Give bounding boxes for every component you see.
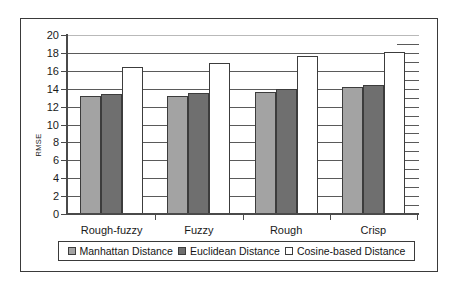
y-tick-label: 8 xyxy=(53,137,59,148)
x-tick-mark xyxy=(243,215,244,220)
y-tick-label: 12 xyxy=(47,101,59,112)
legend-entry[interactable]: Euclidean Distance xyxy=(178,246,280,257)
bar xyxy=(101,94,122,213)
x-axis-category-label: Fuzzy xyxy=(184,225,213,236)
legend-label: Manhattan Distance xyxy=(80,246,173,257)
x-axis-category-label: Rough-fuzzy xyxy=(81,225,143,236)
bar xyxy=(276,89,297,213)
bar-group xyxy=(68,34,155,213)
legend-swatch-icon xyxy=(178,247,186,255)
bar-group xyxy=(330,34,417,213)
bar-group xyxy=(243,34,330,213)
x-tick-mark xyxy=(417,215,418,220)
y-tick-label: 14 xyxy=(47,83,59,94)
legend-label: Euclidean Distance xyxy=(190,246,280,257)
bar xyxy=(255,92,276,213)
y-tick-label: 0 xyxy=(53,209,59,220)
bar xyxy=(384,52,405,213)
bar xyxy=(188,93,209,213)
bar xyxy=(297,56,318,213)
y-tick-label: 20 xyxy=(47,30,59,41)
x-tick-mark xyxy=(155,215,156,220)
bar xyxy=(363,85,384,213)
bar xyxy=(122,67,143,213)
legend-swatch-icon xyxy=(285,247,293,255)
x-axis-category-label: Rough xyxy=(270,225,302,236)
bar-group xyxy=(155,34,242,213)
legend-swatch-icon xyxy=(68,247,76,255)
plot-area: 02468101214161820 Rough-fuzzyFuzzyRoughC… xyxy=(66,34,419,215)
chart-legend: Manhattan DistanceEuclidean DistanceCosi… xyxy=(58,241,415,261)
y-tick-label: 6 xyxy=(53,155,59,166)
y-tick-label: 4 xyxy=(53,173,59,184)
x-tick-mark xyxy=(330,215,331,220)
y-tick-label: 2 xyxy=(53,191,59,202)
legend-entry[interactable]: Cosine-based Distance xyxy=(285,246,406,257)
legend-entry[interactable]: Manhattan Distance xyxy=(68,246,173,257)
bar xyxy=(80,96,101,213)
y-axis-title: RMSE xyxy=(34,134,43,157)
y-tick-label: 18 xyxy=(47,47,59,58)
x-axis-category-label: Crisp xyxy=(361,225,387,236)
bar xyxy=(209,63,230,213)
y-tick-label: 10 xyxy=(47,119,59,130)
chart-frame: RMSE 02468101214161820 Rough-fuzzyFuzzyR… xyxy=(20,18,438,272)
legend-label: Cosine-based Distance xyxy=(297,246,406,257)
y-tick-label: 16 xyxy=(47,65,59,76)
bar xyxy=(342,87,363,213)
bar xyxy=(167,96,188,213)
